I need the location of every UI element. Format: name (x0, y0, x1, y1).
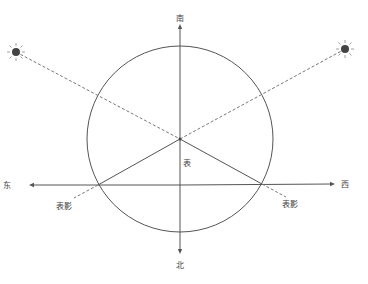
sun-ray-left (16, 52, 180, 139)
gnomon-point (179, 138, 182, 141)
gnomon-diagram: 南 北 东 西 表 表影 表影 (0, 0, 368, 284)
sun-icon-right (336, 40, 354, 58)
shadow-extension-right (262, 184, 286, 197)
east-west-axis-right (180, 184, 333, 185)
label-west: 西 (341, 180, 349, 189)
shadow-extension-left (74, 185, 98, 198)
sun-ray-right (180, 49, 345, 139)
sun-icon-left (7, 43, 25, 61)
label-shadow-right: 表影 (282, 199, 298, 209)
label-shadow-left: 表影 (56, 201, 72, 211)
label-north: 北 (176, 261, 184, 270)
label-east: 东 (3, 180, 11, 190)
label-south: 南 (176, 13, 184, 23)
shadow-line-left (98, 139, 180, 185)
shadow-line-right (180, 139, 262, 184)
label-gnomon: 表 (183, 158, 191, 168)
